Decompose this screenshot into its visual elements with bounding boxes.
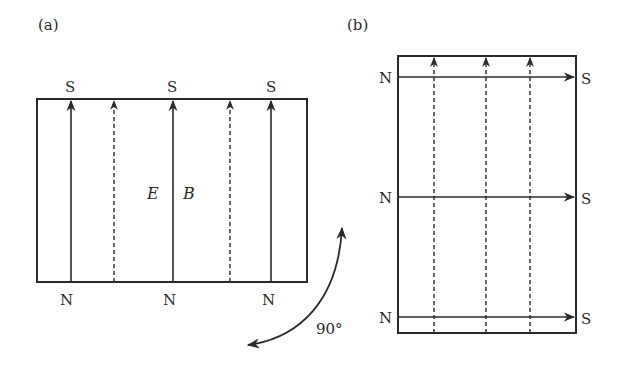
pole-label-n: N bbox=[163, 291, 176, 309]
panel-a-dashed-arrows bbox=[114, 101, 230, 282]
diagram-canvas: (a) S S S N N N E B 90° (b) N N N bbox=[0, 0, 621, 366]
pole-label-s: S bbox=[167, 78, 177, 96]
pole-label-s: S bbox=[581, 70, 591, 88]
pole-label-n: N bbox=[379, 309, 392, 327]
panel-b-dashed-arrows bbox=[434, 58, 530, 333]
pole-label-n: N bbox=[262, 291, 275, 309]
field-label-e: E bbox=[146, 184, 159, 203]
panel-b-label: (b) bbox=[347, 16, 368, 34]
panel-b-frame bbox=[398, 56, 576, 333]
pole-label-n: N bbox=[379, 189, 392, 207]
panel-a-label: (a) bbox=[38, 16, 59, 34]
panel-a-solid-arrows bbox=[71, 101, 271, 282]
pole-label-n: N bbox=[60, 291, 73, 309]
field-label-b: B bbox=[182, 184, 195, 203]
pole-label-n: N bbox=[379, 69, 392, 87]
pole-label-s: S bbox=[266, 78, 276, 96]
pole-label-s: S bbox=[581, 310, 591, 328]
pole-label-s: S bbox=[581, 190, 591, 208]
pole-label-s: S bbox=[65, 78, 75, 96]
rotation-angle-label: 90° bbox=[316, 320, 343, 338]
panel-a-frame bbox=[37, 99, 307, 282]
